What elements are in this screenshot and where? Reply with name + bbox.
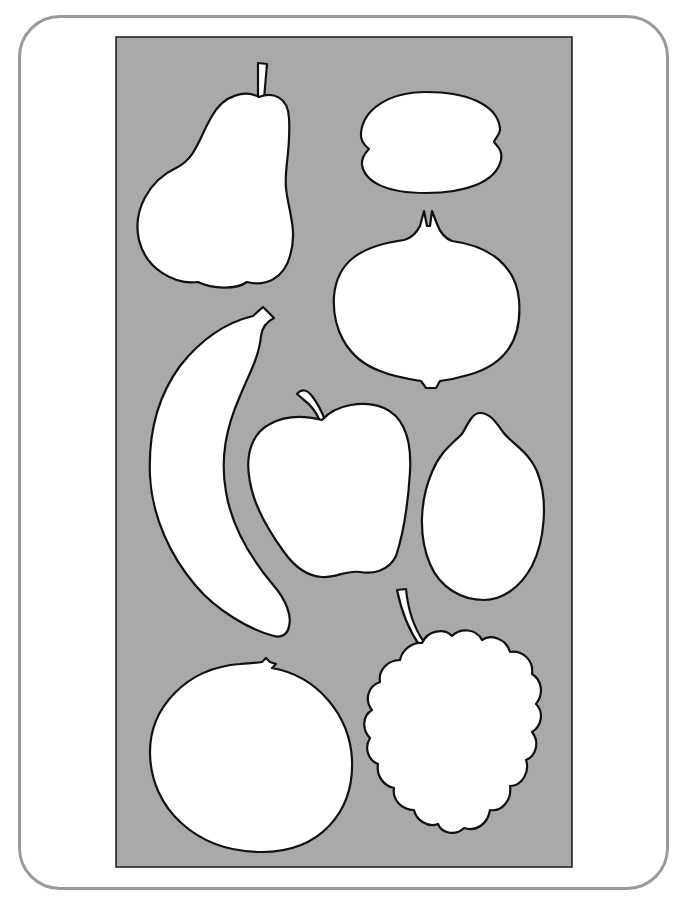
- flattened-fruit-icon: [361, 92, 502, 193]
- fruit-panel: [0, 0, 693, 910]
